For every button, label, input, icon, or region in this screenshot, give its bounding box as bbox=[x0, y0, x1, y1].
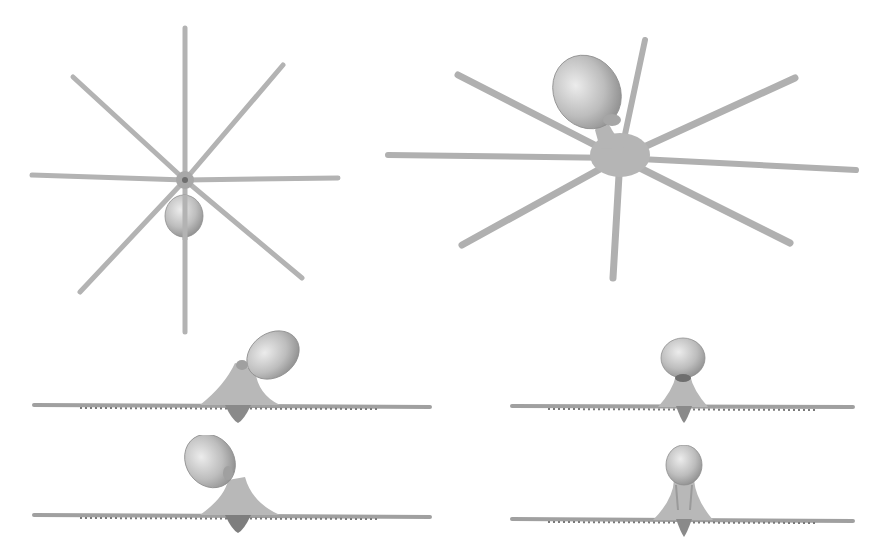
octopus-back-view bbox=[508, 445, 858, 540]
octopus-side-view-1 bbox=[30, 325, 435, 425]
octopus-top-view bbox=[20, 20, 360, 340]
octopus-side-view-2 bbox=[30, 435, 435, 535]
octopus-front-view bbox=[508, 330, 858, 425]
octopus-perspective-view bbox=[380, 20, 880, 290]
